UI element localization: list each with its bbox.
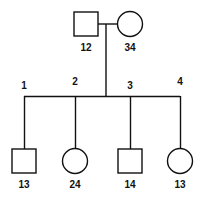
female-circle-symbol[interactable]: [168, 149, 193, 174]
child-1[interactable]: 13: [12, 149, 36, 190]
child-3[interactable]: 14: [118, 149, 142, 190]
male-square-symbol[interactable]: [12, 149, 36, 173]
sibship-index-1: 1: [21, 80, 27, 91]
sibship-index-2: 2: [72, 76, 78, 87]
sibship-index-4: 4: [177, 76, 183, 87]
female-circle-symbol[interactable]: [118, 12, 143, 37]
female-circle-symbol[interactable]: [63, 149, 88, 174]
child-4[interactable]: 13: [168, 149, 193, 191]
father-label: 12: [80, 42, 92, 53]
mother-label: 34: [124, 42, 136, 53]
sibship-index-3: 3: [127, 80, 133, 91]
child-2-label: 24: [69, 179, 81, 190]
child-3-label: 14: [124, 179, 136, 190]
male-square-symbol[interactable]: [118, 149, 142, 173]
parent-mother[interactable]: 34: [118, 12, 143, 54]
pedigree-diagram: 12 34 1 2 3 4 13 24 14 13: [0, 0, 200, 198]
child-4-label: 13: [174, 179, 186, 190]
parent-father[interactable]: 12: [74, 12, 98, 53]
sibship-index-group: 1 2 3 4: [21, 76, 183, 91]
child-2[interactable]: 24: [63, 149, 88, 191]
male-square-symbol[interactable]: [74, 12, 98, 36]
connector-group: [24, 24, 181, 149]
child-1-label: 13: [18, 179, 30, 190]
